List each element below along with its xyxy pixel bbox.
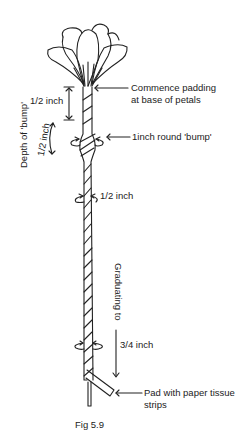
figure-caption: Fig 5.9 <box>75 419 104 431</box>
label-pad-tissue: Pad with paper tissue <box>144 387 235 399</box>
label-half-inch-top: 1/2 inch <box>30 95 63 107</box>
flower-head-icon <box>48 24 127 86</box>
label-three-quarter-inch: 3/4 inch <box>120 339 153 351</box>
diagram-figure: Commence padding at base of petals 1/2 i… <box>0 0 247 446</box>
label-commence-padding: Commence padding <box>131 82 216 94</box>
label-bump: 1inch round 'bump' <box>132 131 212 143</box>
label-graduating-to: Graduating to <box>113 263 124 321</box>
dimension-half-inch-top <box>64 87 74 120</box>
label-base-of-petals: at base of petals <box>131 94 201 106</box>
label-half-inch-round: 1/2 inch <box>100 190 133 202</box>
label-strips: strips <box>144 399 167 411</box>
label-depth-of-bump: Depth of 'bump' <box>18 102 29 168</box>
stem-illustration <box>0 0 247 446</box>
